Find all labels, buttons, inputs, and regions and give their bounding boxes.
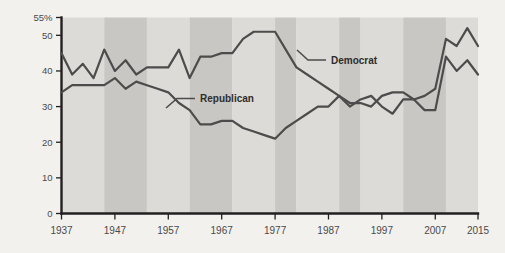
x-tick-label: 1957 [157,225,180,236]
era-band [275,18,296,214]
y-tick-label: 20 [42,137,53,148]
y-axis-ticks: 55%50403020100 [33,12,61,219]
x-axis-ticks: 193719471957196719771987199720072015 [50,214,489,236]
era-band [62,18,105,214]
y-tick-label: 55% [33,12,53,23]
x-tick-label: 1987 [317,225,340,236]
x-tick-label: 2007 [424,225,447,236]
era-band [232,18,275,214]
line-chart: 55%50403020100 1937194719571967197719871… [0,0,505,253]
x-tick-label: 1967 [211,225,234,236]
y-tick-label: 10 [42,172,53,183]
x-tick-label: 1997 [371,225,394,236]
era-band [339,18,360,214]
x-tick-label: 1977 [264,225,287,236]
era-band [403,18,446,214]
x-tick-label: 1937 [50,225,73,236]
y-tick-label: 30 [42,101,53,112]
series-label-republican: Republican [200,93,254,104]
era-shading-bands [62,18,479,214]
x-tick-label: 1947 [104,225,127,236]
era-band [104,18,147,214]
era-band [190,18,233,214]
series-label-democrat: Democrat [331,55,378,66]
chart-container: 55%50403020100 1937194719571967197719871… [0,0,505,253]
era-band [147,18,190,214]
era-band [446,18,478,214]
y-tick-label: 40 [42,65,53,76]
y-tick-label: 50 [42,30,53,41]
x-tick-label: 2015 [467,225,490,236]
y-tick-label: 0 [47,208,52,219]
era-band [361,18,404,214]
